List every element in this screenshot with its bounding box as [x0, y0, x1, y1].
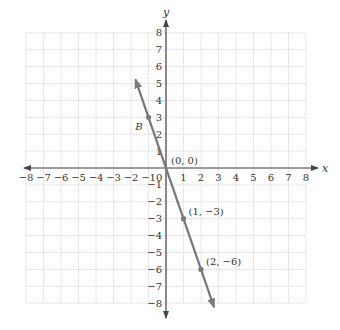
point-label: (1, −3) — [189, 206, 224, 217]
x-tick-label: 5 — [250, 172, 256, 183]
y-tick-label: −5 — [147, 247, 162, 258]
point-label: (2, −6) — [206, 256, 241, 267]
x-tick-label: 8 — [303, 172, 309, 183]
data-point — [146, 115, 151, 120]
x-tick-label: −8 — [19, 172, 34, 183]
x-tick-label: 3 — [215, 172, 221, 183]
y-tick-label: −3 — [147, 213, 162, 224]
axes — [24, 20, 318, 318]
y-tick-label: −8 — [147, 298, 162, 309]
x-tick-label: −2 — [124, 172, 139, 183]
x-tick-label: 4 — [233, 172, 239, 183]
y-tick-label: 8 — [156, 27, 162, 38]
y-tick-label: 5 — [156, 78, 162, 89]
x-tick-label: −5 — [71, 172, 86, 183]
y-tick-label: −2 — [147, 196, 162, 207]
graph-svg: −8−7−6−5−4−3−2−112345678−8−7−6−5−4−3−2−1… — [0, 0, 340, 330]
y-tick-label: −4 — [147, 230, 162, 241]
x-tick-label: −4 — [89, 172, 104, 183]
y-tick-label: 4 — [156, 95, 162, 106]
x-tick-label: −7 — [36, 172, 51, 183]
x-tick-label: −6 — [54, 172, 69, 183]
y-tick-label: −6 — [147, 264, 162, 275]
y-tick-label: 3 — [156, 112, 162, 123]
point-label: (0, 0) — [171, 155, 198, 166]
x-tick-label: 6 — [268, 172, 274, 183]
x-tick-label: 7 — [285, 172, 291, 183]
y-tick-label: 7 — [156, 44, 162, 55]
x-tick-label: 2 — [198, 172, 204, 183]
coordinate-plane: −8−7−6−5−4−3−2−112345678−8−7−6−5−4−3−2−1… — [0, 0, 340, 330]
y-tick-label: −7 — [147, 281, 162, 292]
point-label: B — [134, 121, 142, 132]
origin-label: 0 — [156, 172, 162, 183]
x-tick-label: 1 — [180, 172, 186, 183]
x-axis-label: x — [322, 162, 329, 175]
x-tick-label: −3 — [106, 172, 121, 183]
data-point — [198, 267, 203, 272]
y-axis-label: y — [162, 6, 170, 19]
y-tick-label: 6 — [156, 61, 162, 72]
data-point — [181, 216, 186, 221]
